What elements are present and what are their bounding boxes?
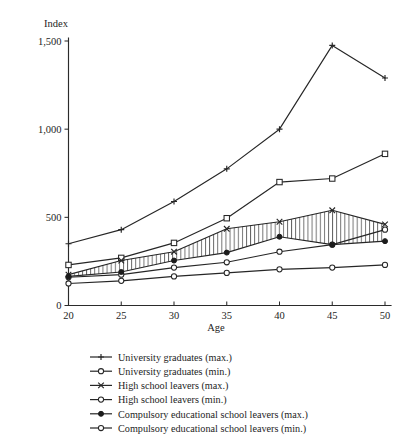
data-point-marker: [66, 274, 71, 279]
data-point-marker: [382, 227, 387, 232]
data-point-marker: [277, 267, 282, 272]
line-chart: 05001,0001,500 Index 20253035404550 Age …: [0, 0, 416, 448]
x-tick-label: 40: [274, 310, 285, 321]
data-point-marker: [383, 239, 388, 244]
y-tick-label: 500: [46, 212, 62, 223]
legend-item-5: Compulsory educational school leavers (m…: [90, 423, 306, 435]
legend-label: High school leavers (min.): [118, 394, 227, 406]
y-tick-label: 1,000: [38, 124, 62, 135]
data-point-marker: [224, 270, 229, 275]
x-tick-label: 20: [63, 310, 74, 321]
data-point-marker: [172, 258, 177, 263]
legend-label: University graduates (max.): [118, 352, 232, 364]
data-point-marker: [382, 262, 387, 267]
legend-label: Compulsory educational school leavers (m…: [118, 423, 306, 435]
data-point-marker: [382, 151, 387, 156]
x-tick-label: 30: [169, 310, 180, 321]
legend-label: Compulsory educational school leavers (m…: [118, 409, 308, 421]
data-point-marker: [330, 176, 335, 181]
legend-label: University graduates (min.): [118, 366, 230, 378]
data-point-marker: [66, 262, 71, 267]
data-point-marker: [277, 179, 282, 184]
data-point-marker: [330, 242, 335, 247]
x-axis-title: Age: [207, 322, 225, 333]
data-point-marker: [171, 265, 176, 270]
data-point-marker: [66, 281, 71, 286]
data-point-marker: [98, 369, 103, 374]
legend-item-4: Compulsory educational school leavers (m…: [90, 409, 308, 421]
data-point-marker: [171, 274, 176, 279]
data-point-marker: [224, 260, 229, 265]
data-point-marker: [119, 278, 124, 283]
x-tick-label: 45: [327, 310, 338, 321]
data-point-marker: [119, 269, 124, 274]
y-tick-label: 1,500: [38, 36, 62, 47]
data-point-marker: [99, 411, 104, 416]
y-axis-title: Index: [44, 18, 69, 29]
chart-figure: 05001,0001,500 Index 20253035404550 Age …: [0, 0, 416, 448]
legend-label: High school leavers (max.): [118, 380, 228, 392]
x-tick-label: 35: [222, 310, 233, 321]
data-point-marker: [224, 216, 229, 221]
data-point-marker: [171, 240, 176, 245]
data-point-marker: [277, 249, 282, 254]
y-tick-label: 0: [56, 300, 61, 311]
data-point-marker: [330, 265, 335, 270]
x-tick-label: 50: [380, 310, 391, 321]
data-point-marker: [98, 425, 103, 430]
data-point-marker: [224, 250, 229, 255]
x-tick-label: 25: [116, 310, 127, 321]
data-point-marker: [277, 234, 282, 239]
data-point-marker: [98, 397, 103, 402]
